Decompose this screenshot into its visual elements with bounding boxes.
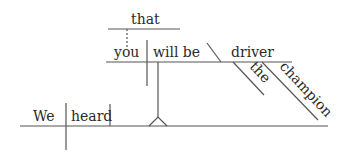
word-subject: We: [33, 108, 55, 124]
word-clause-verb: will be: [153, 44, 200, 60]
word-verb: heard: [71, 108, 112, 124]
sentence-diagram: We heard you will be driver that the cha…: [0, 0, 342, 155]
word-modifier-2: champion: [277, 58, 336, 120]
clause-stand-pedestal: [149, 117, 167, 126]
word-predicate-noun: driver: [231, 44, 274, 60]
word-connector: that: [131, 11, 160, 27]
predicate-slash: [207, 43, 221, 62]
word-clause-subject: you: [113, 44, 139, 60]
